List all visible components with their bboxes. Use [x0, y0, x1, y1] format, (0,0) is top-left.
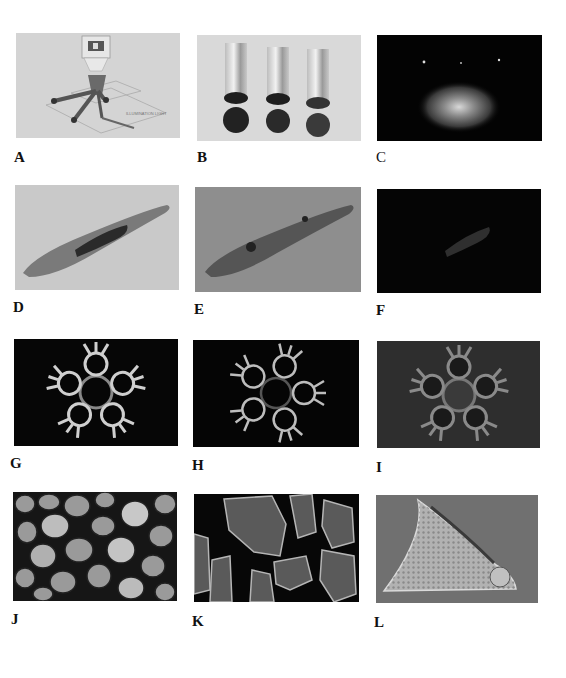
diatom-shell-illustration	[376, 495, 538, 603]
panel-label-c: C	[376, 150, 386, 165]
panel-b-image	[197, 35, 361, 141]
panel-e-image	[195, 187, 361, 292]
organism-dark-illustration	[377, 189, 541, 293]
panel-label-i: I	[376, 460, 382, 475]
radial-colony-illustration-i	[377, 341, 540, 448]
panel-h-image	[193, 340, 359, 447]
panel-c-image	[377, 35, 542, 141]
panel-label-f: F	[376, 303, 385, 318]
panel-l-image	[376, 495, 538, 603]
panel-f-image	[377, 189, 541, 293]
panel-j-image	[13, 492, 177, 601]
test-tubes-illustration	[197, 35, 361, 141]
optical-apparatus-illustration: ILLUMINATION LIGHT	[16, 33, 180, 138]
panel-label-l: L	[374, 615, 384, 630]
crystal-fragments-illustration	[194, 494, 359, 602]
panel-d-image	[15, 185, 179, 290]
organism-bright-illustration	[15, 185, 179, 290]
panel-label-g: G	[10, 456, 22, 471]
panel-a-image: ILLUMINATION LIGHT	[16, 33, 180, 138]
round-grains-illustration	[13, 492, 177, 601]
panel-label-a: A	[14, 150, 25, 165]
radial-colony-illustration-g	[14, 339, 178, 446]
panel-label-e: E	[194, 302, 204, 317]
panel-label-d: D	[13, 300, 24, 315]
organism-gray-illustration	[195, 187, 361, 292]
panel-k-image	[194, 494, 359, 602]
panel-label-k: K	[192, 614, 204, 629]
panel-label-j: J	[11, 612, 19, 627]
panel-i-image	[377, 341, 540, 448]
illumination-label: ILLUMINATION LIGHT	[126, 111, 167, 116]
panel-label-h: H	[192, 458, 204, 473]
radial-colony-illustration-h	[193, 340, 359, 447]
panel-label-b: B	[197, 150, 207, 165]
panel-g-image	[14, 339, 178, 446]
glowing-spot-illustration	[377, 35, 542, 141]
